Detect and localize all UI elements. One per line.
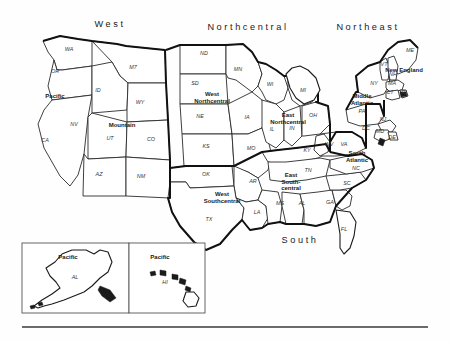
state-label-mn-13: MN — [234, 66, 242, 72]
state-label-wi-18: WI — [267, 81, 274, 87]
division-label-line: Mountain — [109, 122, 136, 128]
state-label-ok-25: OK — [202, 171, 210, 177]
state-label-nj-41: NJ — [380, 116, 387, 122]
division-label-line: Middle — [353, 93, 373, 99]
state-label-nm-10: NM — [137, 173, 146, 179]
state-label-mi-19: MI — [300, 87, 306, 93]
state-label-vt-43: VT — [381, 61, 389, 67]
state-label-m7-2: M7 — [129, 64, 137, 70]
major-region-label-northeast: Northeast — [336, 22, 399, 32]
state-label-fl-32: FL — [341, 226, 347, 232]
state-outline-florida — [336, 210, 356, 254]
division-label-south-atlantic: SouthAtlantic — [346, 150, 369, 163]
state-label-ar-26: AR — [248, 178, 257, 184]
division-label-line: East — [285, 172, 298, 178]
division-label-line: East — [282, 112, 295, 118]
division-label-line: Northcentral — [270, 119, 306, 125]
state-label-co-8: CO — [147, 136, 156, 142]
inset-boxes — [22, 243, 205, 313]
state-label-sd-12: SD — [191, 80, 199, 86]
division-label-line: Pacific — [45, 93, 65, 99]
state-label-nc-34: NC — [352, 165, 360, 171]
state-label-az-9: AZ — [95, 171, 104, 177]
division-label-line: Pacific — [58, 254, 78, 260]
division-label-line: West — [215, 191, 229, 197]
division-label-pacific: Pacific — [45, 93, 65, 99]
state-label-id-3: ID — [95, 87, 100, 93]
state-label-ms-29: MS — [276, 200, 284, 206]
state-label-oh-22: OH — [309, 112, 317, 118]
state-label-ri-48: RI — [401, 89, 407, 95]
state-label-ma-46: MA — [388, 80, 396, 86]
state-label-ky-23: KY — [303, 147, 311, 153]
division-label-pacific-alaska: Pacific — [58, 254, 78, 260]
state-label-va-35: VA — [341, 141, 348, 147]
major-region-label-northcentral: Northcentral — [207, 22, 288, 32]
state-label-nh-44: NH — [389, 71, 397, 77]
state-outlines-west — [38, 36, 170, 198]
division-label-line: South- — [282, 179, 301, 185]
state-label-de-38: DE — [388, 134, 396, 140]
state-label-hi-50: HI — [162, 279, 168, 285]
state-label-or-1: OR — [51, 68, 59, 74]
division-label-line: West — [205, 91, 219, 97]
state-label-md-37: MD — [376, 128, 384, 134]
division-label-line: Southcentral — [204, 198, 241, 204]
state-label-al-49: AL — [71, 274, 79, 280]
state-label-ca-6: CA — [41, 137, 49, 143]
division-label-line: Atlantic — [346, 157, 369, 163]
division-label-line: Pacific — [150, 254, 170, 260]
state-label-in-21: IN — [289, 125, 294, 131]
division-label-line: central — [281, 185, 301, 191]
state-label-ks-16: KS — [202, 143, 210, 149]
division-label-line: Northcentral — [194, 98, 230, 104]
us-census-regions-map: WestNorthcentralNortheastSouth PacificMo… — [0, 0, 450, 342]
state-label-dc-39: DC — [362, 125, 370, 131]
division-label-mountain: Mountain — [109, 122, 136, 128]
major-region-label-west: West — [94, 19, 125, 29]
division-label-line: South — [349, 150, 366, 156]
major-region-label-south: South — [281, 235, 318, 245]
state-label-mo-17: MO — [247, 145, 256, 151]
state-label-pa-40: PA — [359, 108, 366, 114]
state-label-nd-11: ND — [200, 50, 208, 56]
state-label-la-28: LA — [254, 209, 261, 215]
state-label-ne-14: NE — [196, 113, 204, 119]
state-label-me-45: ME — [406, 47, 414, 53]
state-label-wa-0: WA — [65, 46, 74, 52]
state-label-ga-31: GA — [326, 199, 334, 205]
state-label-wy-4: WY — [136, 99, 145, 105]
state-label-ct-47: CT — [386, 89, 394, 95]
state-label-al-30: AL — [298, 200, 306, 206]
state-label-wv-36: WV — [325, 141, 335, 147]
division-label-line: Atlantic — [351, 100, 374, 106]
state-label-tx-27: TX — [206, 216, 213, 222]
state-label-il-20: IL — [270, 126, 275, 132]
state-label-ia-15: IA — [244, 114, 249, 120]
state-label-sc-33: SC — [343, 180, 351, 186]
state-label-ny-42: NY — [370, 80, 378, 86]
state-label-tn-24: TN — [304, 167, 311, 173]
division-label-middle-atlantic: MiddleAtlantic — [351, 93, 374, 106]
state-outlines-plains — [180, 44, 272, 178]
division-label-pacific-hawaii: Pacific — [150, 254, 170, 260]
state-label-ut-7: UT — [106, 135, 114, 141]
